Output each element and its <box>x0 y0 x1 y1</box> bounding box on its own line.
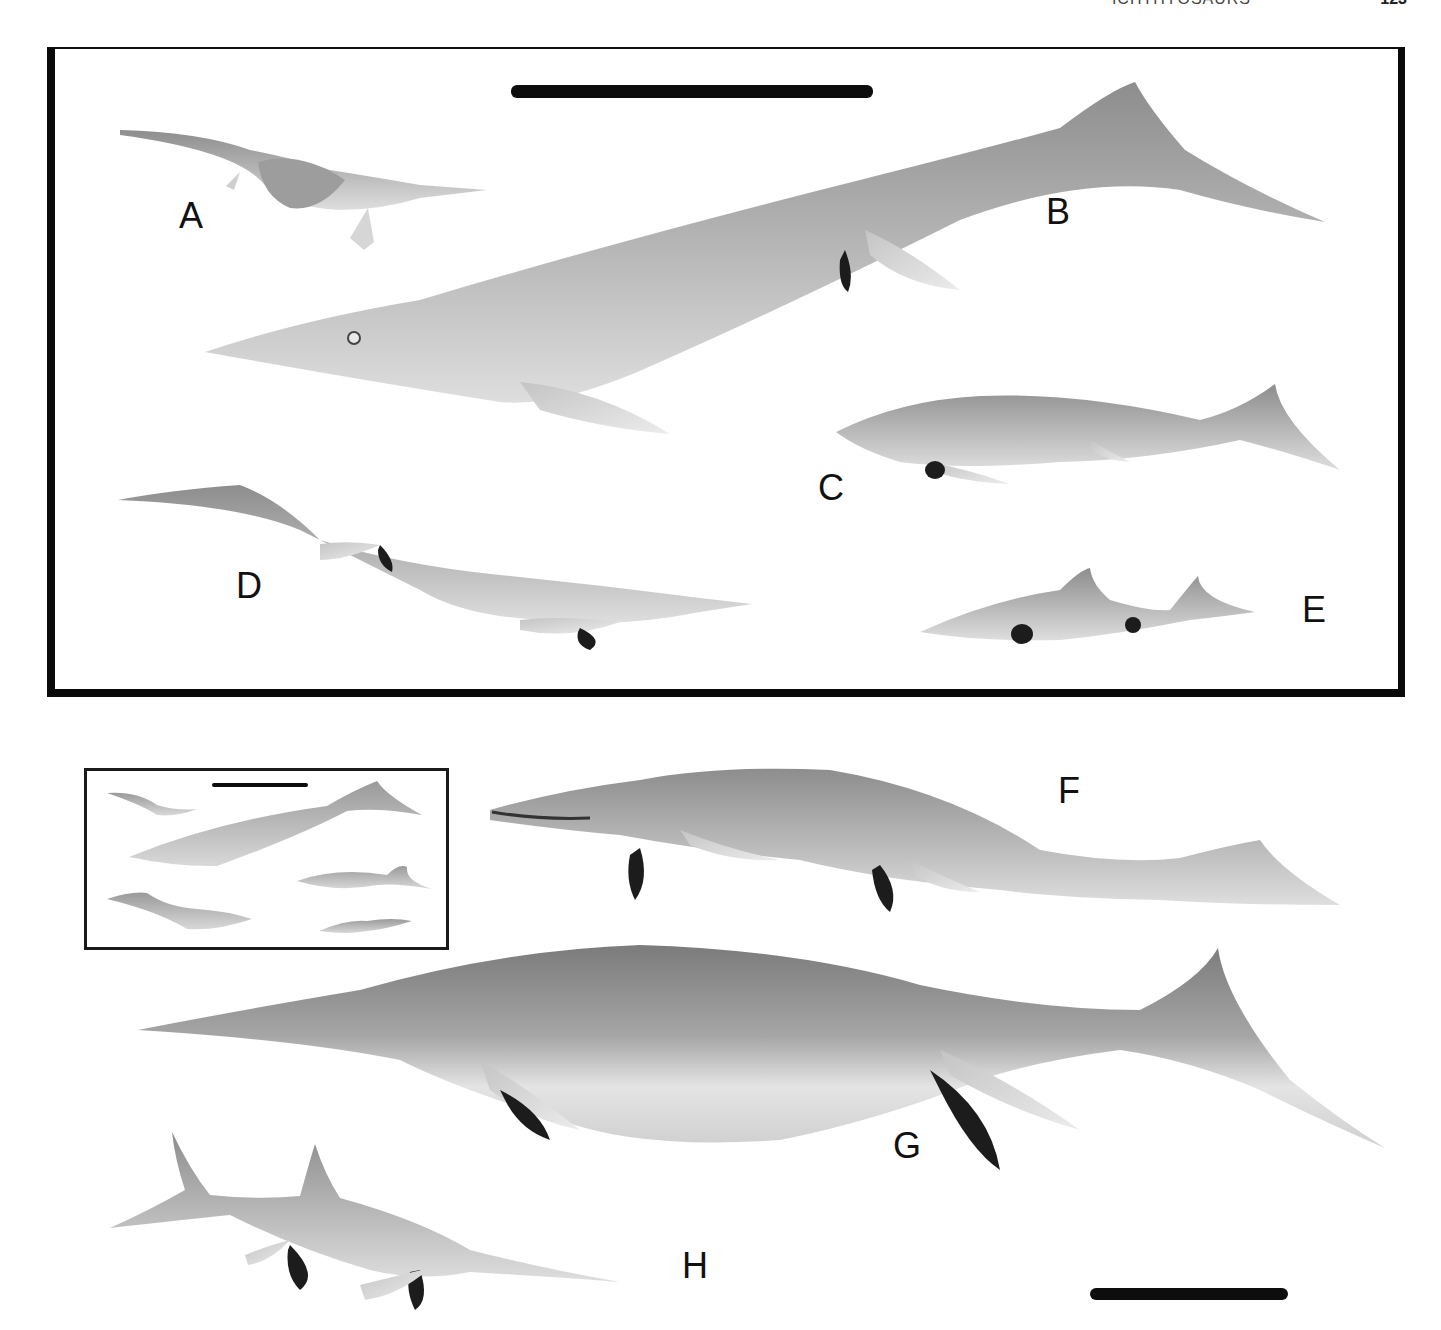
specimen-h-illustration <box>110 1132 620 1310</box>
specimen-label-h: H <box>682 1248 708 1284</box>
specimen-label-g: G <box>893 1128 921 1164</box>
specimen-d-illustration <box>118 485 752 650</box>
specimen-e-illustration <box>920 568 1255 644</box>
specimen-label-b: B <box>1046 194 1070 230</box>
specimen-label-d: D <box>236 568 262 604</box>
specimen-g-illustration <box>138 945 1385 1170</box>
bottom-scale-bar <box>1090 1288 1288 1300</box>
specimen-illustrations <box>0 0 1441 1330</box>
specimen-f-illustration <box>490 769 1340 912</box>
specimen-a-illustration <box>120 130 487 250</box>
specimen-label-a: A <box>179 198 203 234</box>
specimen-label-c: C <box>818 470 844 506</box>
specimen-b-illustration <box>205 82 1325 434</box>
specimen-label-f: F <box>1058 773 1080 809</box>
specimen-label-e: E <box>1302 592 1326 628</box>
specimen-c-illustration <box>836 384 1340 484</box>
